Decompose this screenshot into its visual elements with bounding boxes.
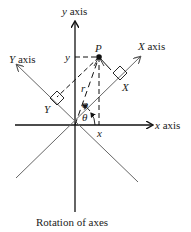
X-axis-label: X axis (137, 40, 165, 52)
rotation-of-axes-diagram: y axis x axis X axis Y axis P y x X Y r … (0, 0, 191, 232)
y-axis-label: y axis (61, 5, 87, 17)
dashed-Y-projection (57, 57, 99, 97)
theta-label: θ (82, 111, 88, 123)
right-angle-marker-Y (50, 91, 64, 105)
right-angle-marker-X (113, 66, 127, 80)
Y-coordinate-label: Y (44, 103, 52, 115)
point-P-label: P (94, 42, 102, 54)
x-axis-label: x axis (154, 119, 180, 131)
X-axis-line (16, 57, 140, 178)
x-coordinate-label: x (96, 127, 102, 139)
r-label: r (81, 82, 86, 94)
Y-axis-label: Y axis (9, 53, 36, 65)
y-coordinate-label: y (64, 51, 70, 63)
caption: Rotation of axes (36, 216, 108, 228)
Y-axis-line (17, 65, 138, 182)
X-coordinate-label: X (121, 81, 130, 93)
point-P (96, 54, 102, 60)
theta-arc (91, 113, 95, 125)
phi-label: φ (82, 98, 88, 110)
